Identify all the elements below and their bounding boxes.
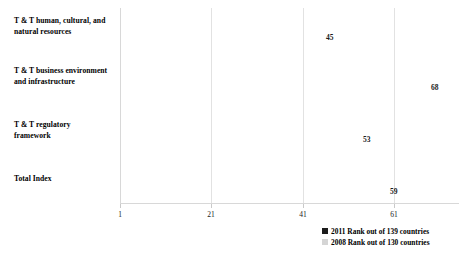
tick-mark-21 xyxy=(211,204,212,208)
legend-item-2008[interactable]: 2008 Rank out of 130 countries xyxy=(322,237,462,247)
bar-row-3-2008: 59 xyxy=(120,184,386,200)
bar-value-0-2008: 45 xyxy=(326,34,334,42)
x-tick-label-1: 1 xyxy=(118,210,122,219)
bar-row-2-2008: 53 xyxy=(120,132,359,148)
chart-legend: 2011 Rank out of 139 countries 2008 Rank… xyxy=(322,226,462,248)
plot-area: 36 45 49 68 32 xyxy=(120,8,459,204)
x-tick-label-41: 41 xyxy=(299,210,307,219)
category-label-1-line1: T & T business environment xyxy=(14,66,118,77)
bar-group-3: 36 59 xyxy=(120,166,459,215)
bar-value-1-2011: 49 xyxy=(328,66,336,74)
x-tick-label-61: 61 xyxy=(390,210,398,219)
bar-row-1-2008: 68 xyxy=(120,80,427,96)
tick-mark-61 xyxy=(394,204,395,208)
legend-item-2011[interactable]: 2011 Rank out of 139 countries xyxy=(322,226,462,236)
category-label-3-line1: Total Index xyxy=(14,174,118,185)
bar-group-1: 49 68 xyxy=(120,62,459,111)
bar-value-3-2008: 59 xyxy=(390,188,398,196)
legend-swatch-2008-icon xyxy=(322,239,328,245)
bar-row-1-2011: 49 xyxy=(120,62,340,78)
bar-value-2-2008: 53 xyxy=(363,136,371,144)
legend-swatch-2011-icon xyxy=(322,228,328,234)
legend-label-2011: 2011 Rank out of 139 countries xyxy=(331,227,429,236)
bar-chart: T & T human, cultural, and natural resou… xyxy=(0,0,468,259)
tick-mark-41 xyxy=(303,204,304,208)
category-label-0: T & T human, cultural, and natural resou… xyxy=(14,16,118,38)
category-label-1-line2: and infrastructure xyxy=(14,77,118,88)
bar-group-0: 36 45 xyxy=(120,12,459,61)
tick-mark-1 xyxy=(120,204,121,208)
bar-value-1-2008: 68 xyxy=(431,84,439,92)
x-tick-label-21: 21 xyxy=(207,210,215,219)
category-label-2-line1: T & T regulatory xyxy=(14,120,118,131)
bar-row-3-2011: 36 xyxy=(120,166,281,182)
bar-value-0-2011: 36 xyxy=(269,16,277,24)
category-label-0-line1: T & T human, cultural, and xyxy=(14,16,118,27)
bar-value-2-2011: 32 xyxy=(250,118,258,126)
bar-row-0-2008: 45 xyxy=(120,30,322,46)
category-label-1: T & T business environment and infrastru… xyxy=(14,66,118,88)
legend-label-2008: 2008 Rank out of 130 countries xyxy=(331,238,430,247)
category-label-0-line2: natural resources xyxy=(14,27,118,38)
bar-row-0-2011: 36 xyxy=(120,12,281,28)
category-label-2-line2: framework xyxy=(14,131,118,142)
category-label-2: T & T regulatory framework xyxy=(14,120,118,142)
bar-row-2-2011: 32 xyxy=(120,114,262,130)
bar-group-2: 32 53 xyxy=(120,114,459,163)
bar-value-3-2011: 36 xyxy=(269,170,277,178)
category-label-3: Total Index xyxy=(14,174,118,185)
